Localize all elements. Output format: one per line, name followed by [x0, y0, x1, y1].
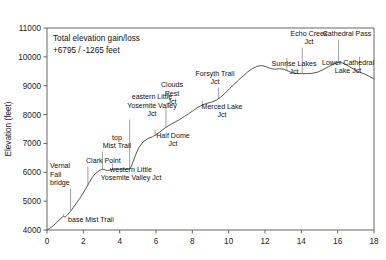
annotation-gain-loss-title: Total elevation gain/loss [53, 34, 140, 43]
waypoint-label-line: Fall [50, 171, 62, 179]
x-tick-label: 8 [190, 237, 195, 246]
y-axis-title: Elevation (feet) [4, 101, 13, 156]
x-tick-label: 16 [333, 237, 343, 246]
waypoint-label-line: Rest [165, 90, 180, 98]
waypoint-label: Clark Point [86, 157, 121, 165]
waypoint-label-line: Half Dome [156, 132, 190, 140]
elevation-profile-chart: 4000500060007000800090001000011000 02468… [0, 0, 386, 260]
annotation-gain-loss-value: +6795 / -1265 feet [53, 46, 120, 55]
waypoint-label: Lower CathedralLake Jct [322, 59, 374, 75]
x-tick-label: 10 [224, 237, 234, 246]
waypoint-label-line: western Little [109, 166, 152, 174]
waypoint-label: western LittleYosemite Valley Jct [101, 166, 162, 182]
y-axis-ticks: 4000500060007000800090001000011000 [18, 24, 47, 235]
waypoint-label-line: top [112, 134, 122, 142]
waypoint-label-line: Cathedral Pass [323, 30, 372, 38]
waypoint-label: topMist Trail [103, 134, 132, 150]
waypoint-label: VernalFallbridge [50, 162, 71, 187]
waypoint-label: Forsyth TrailJct [195, 70, 234, 86]
x-axis-ticks: 024681012141618 [45, 230, 379, 246]
y-tick-label: 7000 [23, 139, 42, 148]
x-tick-label: 12 [260, 237, 270, 246]
waypoint-label-line: Clark Point [86, 157, 121, 165]
x-tick-label: 18 [369, 237, 379, 246]
waypoint-label-line: Jct [167, 98, 176, 106]
waypoint-label: Merced LakeJct [201, 103, 242, 119]
x-tick-label: 6 [154, 237, 159, 246]
elevation-profile-line [47, 63, 374, 230]
waypoint-label-line: Vernal [50, 162, 71, 170]
waypoint-label-line: Jct [304, 38, 313, 46]
waypoint-labels: base Mist TrailVernalFallbridgeClark Poi… [50, 30, 374, 224]
waypoint-label-line: Lower Cathedral [322, 59, 374, 67]
y-tick-label: 11000 [19, 24, 42, 33]
y-tick-label: 6000 [23, 168, 42, 177]
x-tick-label: 14 [297, 237, 307, 246]
waypoint-label-line: Sunrise Lakes [272, 60, 317, 68]
waypoint-label-line: base Mist Trail [68, 216, 114, 224]
waypoint-label-line: Jct [210, 78, 219, 86]
waypoint-label-line: Lake Jct [335, 67, 361, 75]
waypoint-label-line: Clouds [161, 81, 184, 89]
waypoint-label: base Mist Trail [68, 216, 114, 224]
waypoint-label-line: bridge [50, 179, 70, 187]
waypoint-label-line: Jct [168, 140, 177, 148]
chart-canvas: 4000500060007000800090001000011000 02468… [0, 0, 386, 260]
waypoint-label-line: Jct [217, 111, 226, 119]
waypoint-label-line: Jct [147, 110, 156, 118]
x-tick-label: 2 [81, 237, 86, 246]
y-tick-label: 9000 [23, 82, 42, 91]
waypoint-label: Cathedral Pass [323, 30, 372, 38]
y-tick-label: 10000 [18, 53, 41, 62]
waypoint-label-line: Merced Lake [201, 103, 242, 111]
waypoint-label: Half DomeJct [156, 132, 190, 148]
x-tick-label: 0 [45, 237, 50, 246]
waypoint-label-line: Jct [289, 68, 298, 76]
x-tick-label: 4 [117, 237, 122, 246]
waypoint-label-line: Yosemite Valley Jct [101, 174, 162, 182]
waypoint-label-line: Forsyth Trail [195, 70, 234, 78]
y-tick-label: 5000 [23, 197, 42, 206]
y-tick-label: 4000 [23, 226, 42, 235]
waypoint-label-line: Mist Trail [103, 142, 132, 150]
y-tick-label: 8000 [23, 111, 42, 120]
